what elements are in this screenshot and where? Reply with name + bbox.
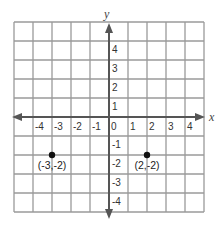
x-tick-label: 1 [130,121,136,132]
y-tick-label: -3 [112,177,121,188]
y-tick-label: -4 [112,196,121,207]
point-label: (2,-2) [134,159,159,171]
x-tick-labels: -4-3-2-101234 [35,121,193,132]
x-tick-label: 0 [111,121,117,132]
y-tick-label: -2 [112,158,121,169]
x-tick-label: 3 [168,121,174,132]
point-marker [144,152,150,158]
x-tick-label: -1 [92,121,101,132]
x-tick-label: 4 [187,121,193,132]
x-tick-label: -4 [35,121,44,132]
y-tick-label: 3 [112,63,118,74]
y-tick-label: -1 [112,139,121,150]
x-tick-label: 2 [149,121,155,132]
x-axis-name: x [208,110,215,124]
x-tick-label: -2 [73,121,82,132]
point-marker [49,152,55,158]
y-axis-top-arrow-icon [105,23,113,33]
y-tick-label: 1 [112,101,118,112]
y-axis-name: y [103,7,110,21]
x-tick-label: -3 [54,121,63,132]
y-tick-label: 4 [112,44,118,55]
point-label: (-3,-2) [38,159,67,171]
y-tick-label: 2 [112,82,118,93]
y-axis-bottom-arrow-icon [105,209,113,219]
coordinate-plane: x y -4-3-2-101234 4321-1-2-3-4 (-3,-2)(2… [0,0,224,225]
